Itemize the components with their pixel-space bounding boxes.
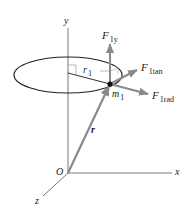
mass-point — [107, 81, 112, 86]
mass-label-sub: 1 — [120, 93, 124, 102]
force-f1y-label: F1y — [102, 30, 118, 41]
radius-label: r1 — [83, 65, 92, 75]
force-f1tan-sub: 1tan — [149, 67, 163, 76]
force-f1tan-label: F1tan — [141, 62, 163, 73]
y-axis-label: y — [64, 16, 68, 26]
tangent-guide — [110, 68, 118, 74]
radius-label-sub: 1 — [88, 69, 92, 78]
x-axis-label: x — [175, 167, 179, 177]
position-vector-r — [68, 86, 109, 173]
force-f1y-sub: 1y — [110, 35, 118, 44]
force-f1rad-main: F — [152, 89, 159, 101]
radius-label-main: r — [83, 64, 87, 75]
force-f1tan-main: F — [141, 61, 148, 73]
force-f1rad-label: F1rad — [152, 90, 174, 101]
vector-diagram — [0, 0, 189, 210]
force-f1y-main: F — [102, 29, 109, 41]
mass-label-main: m — [112, 88, 119, 99]
position-vector-label: r — [91, 125, 95, 135]
mass-label: m1 — [112, 89, 124, 99]
origin-label: O — [56, 167, 63, 177]
z-axis-label: z — [35, 196, 39, 206]
right-angle-marker-mass — [100, 71, 110, 78]
force-f1tan-arrow — [110, 70, 137, 84]
force-f1rad-sub: 1rad — [160, 95, 174, 104]
